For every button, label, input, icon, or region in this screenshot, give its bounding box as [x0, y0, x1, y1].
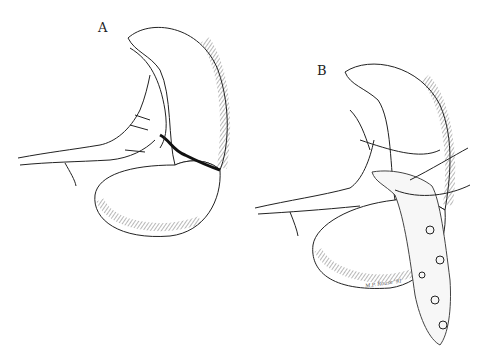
spleen-drawings [0, 0, 490, 354]
spleen-b-drawing [255, 64, 470, 345]
spleen-a-drawing [18, 27, 227, 236]
